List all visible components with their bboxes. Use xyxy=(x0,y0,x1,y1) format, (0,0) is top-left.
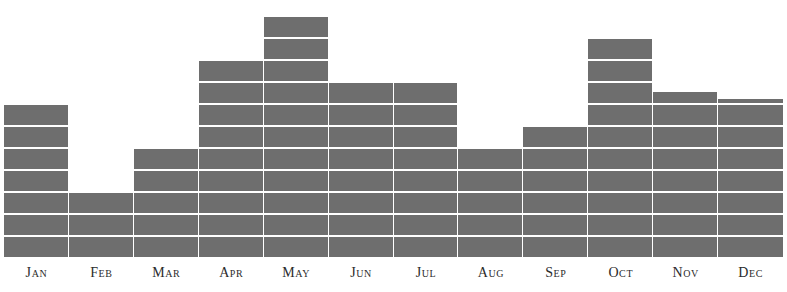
bar-column xyxy=(264,0,329,257)
bar-feb[interactable] xyxy=(69,191,134,257)
band-lines xyxy=(718,99,783,257)
bar-column xyxy=(394,0,459,257)
bar-chart: Jan Feb Mar Apr May Jun Jul Aug Sep Oct … xyxy=(0,0,787,292)
band-lines xyxy=(329,81,393,257)
bar-jun[interactable] xyxy=(329,81,394,257)
bar-column xyxy=(134,0,199,257)
band-lines xyxy=(394,81,458,257)
bar-oct[interactable] xyxy=(588,37,653,257)
bar-column xyxy=(718,0,783,257)
bar-column xyxy=(4,0,69,257)
band-lines xyxy=(199,59,263,257)
bar-sep[interactable] xyxy=(523,125,588,257)
bar-dec[interactable] xyxy=(718,99,783,257)
bar-column xyxy=(653,0,718,257)
bar-may[interactable] xyxy=(264,15,329,257)
band-lines xyxy=(4,103,68,257)
bar-column xyxy=(588,0,653,257)
axis-label-jul: Jul xyxy=(394,262,459,290)
bar-column xyxy=(523,0,588,257)
axis-label-nov: Nov xyxy=(653,262,718,290)
axis-label-may: May xyxy=(264,262,329,290)
bar-aug[interactable] xyxy=(458,147,523,257)
axis-label-aug: Aug xyxy=(458,262,523,290)
bar-mar[interactable] xyxy=(134,147,199,257)
bar-column xyxy=(329,0,394,257)
band-lines xyxy=(69,191,133,257)
axis-label-apr: Apr xyxy=(199,262,264,290)
axis-label-jan: Jan xyxy=(4,262,69,290)
band-lines xyxy=(588,37,652,257)
axis-label-mar: Mar xyxy=(134,262,199,290)
plot-area xyxy=(4,0,783,257)
band-lines xyxy=(264,15,328,257)
axis-label-oct: Oct xyxy=(588,262,653,290)
bar-jul[interactable] xyxy=(394,81,459,257)
band-lines xyxy=(653,92,717,257)
bar-apr[interactable] xyxy=(199,59,264,257)
band-lines xyxy=(134,147,198,257)
bar-column xyxy=(458,0,523,257)
axis-label-sep: Sep xyxy=(523,262,588,290)
bar-nov[interactable] xyxy=(653,92,718,257)
bar-column xyxy=(69,0,134,257)
bar-jan[interactable] xyxy=(4,103,69,257)
axis-label-jun: Jun xyxy=(329,262,394,290)
axis-label-feb: Feb xyxy=(69,262,134,290)
bar-column xyxy=(199,0,264,257)
axis-label-dec: Dec xyxy=(718,262,783,290)
band-lines xyxy=(458,147,522,257)
band-lines xyxy=(523,125,587,257)
x-axis-labels: Jan Feb Mar Apr May Jun Jul Aug Sep Oct … xyxy=(4,262,783,290)
